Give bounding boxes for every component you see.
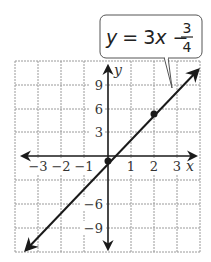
x-axis-label: x	[186, 158, 194, 174]
point-x2	[151, 111, 158, 118]
x-tick-label: −2	[51, 159, 70, 174]
fraction-denominator: 4	[183, 39, 192, 55]
x-tick-label: 2	[150, 159, 158, 174]
y-tick-label: −9	[84, 221, 103, 236]
x-tick-label: 1	[127, 159, 135, 174]
fraction-numerator: 3	[183, 20, 192, 36]
y-tick-label: 3	[95, 125, 103, 140]
x-tick-label: −1	[74, 159, 93, 174]
y-tick-label: 9	[95, 78, 103, 93]
point-y-intercept	[105, 158, 112, 165]
y-axis-label: y	[113, 62, 123, 78]
y-tick-label: −6	[84, 197, 103, 212]
coordinate-plane: −3 −2 −1 1 2 3 x 9 6 3 −6 −9 y y=3x− 3 4	[0, 0, 211, 262]
equation-callout: y=3x− 3 4	[100, 15, 202, 58]
y-tick-label: 6	[95, 102, 103, 117]
callout-pointer	[164, 57, 172, 88]
x-tick-label: 3	[173, 159, 181, 174]
x-tick-label: −3	[28, 159, 47, 174]
